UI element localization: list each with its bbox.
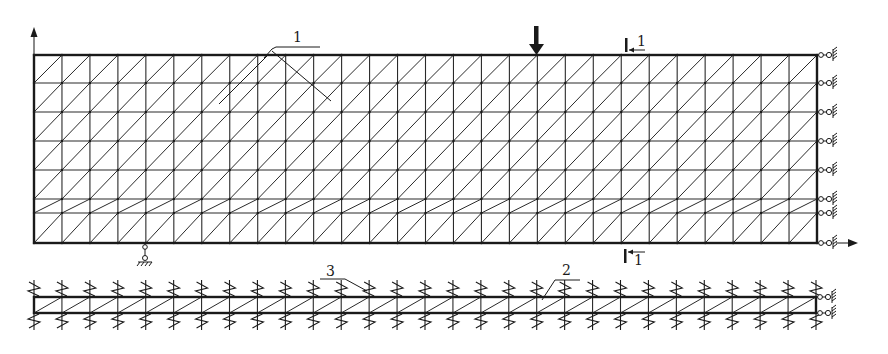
section-label-top: 1 [637, 33, 646, 49]
pin-support-icon [137, 243, 152, 266]
label-2: 2 [562, 262, 571, 278]
section-marker-top: 1 [625, 33, 646, 53]
strip-roller-supports [817, 289, 836, 319]
label-3: 3 [326, 263, 335, 279]
section-label-bottom: 1 [634, 252, 643, 268]
callout-1: 1 [219, 29, 331, 104]
right-roller-supports [818, 47, 837, 249]
fem-mesh-diagram: 1 1 1 3 2 [0, 0, 888, 354]
main-mesh [33, 54, 818, 244]
strip-mesh [33, 296, 817, 314]
y-axis-arrow [31, 27, 38, 55]
callout-2: 2 [542, 262, 580, 300]
section-marker-bottom: 1 [624, 249, 645, 268]
label-1: 1 [293, 29, 302, 45]
x-axis-arrow [836, 239, 858, 247]
downward-load-arrow [529, 26, 544, 55]
callout-3: 3 [320, 263, 367, 291]
